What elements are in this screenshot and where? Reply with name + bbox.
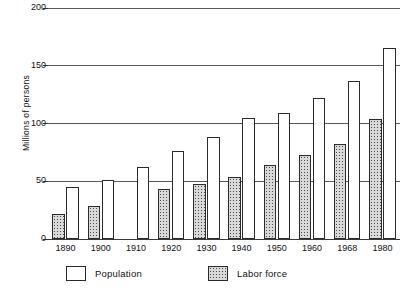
x-tick-label: 1960 xyxy=(292,243,332,253)
legend-entry-labor: Labor force xyxy=(208,264,287,282)
y-tick-label: 200 xyxy=(20,3,46,12)
bar-labor-force xyxy=(264,165,277,239)
bar-population xyxy=(102,180,115,239)
bar-population xyxy=(313,98,326,239)
bar-labor-force xyxy=(228,177,241,239)
bar-group xyxy=(158,8,185,239)
bar-population xyxy=(137,167,150,239)
x-tick-label: 1910 xyxy=(116,243,156,253)
bar-population xyxy=(348,81,361,239)
bar-population xyxy=(278,113,291,239)
x-tick-label: 1890 xyxy=(46,243,86,253)
y-tick-label: 50 xyxy=(20,176,46,185)
x-tick-label: 1950 xyxy=(257,243,297,253)
bar-labor-force xyxy=(52,214,65,239)
bar-group xyxy=(264,8,291,239)
bar-group xyxy=(369,8,396,239)
chart-legend: PopulationLabor force xyxy=(0,264,419,288)
x-tick-label: 1930 xyxy=(186,243,226,253)
legend-swatch-population xyxy=(66,266,86,281)
bar-population xyxy=(172,151,185,239)
bar-group xyxy=(193,8,220,239)
bar-population xyxy=(242,118,255,239)
bar-group xyxy=(52,8,79,239)
x-tick-label: 1920 xyxy=(151,243,191,253)
legend-swatch-labor xyxy=(208,266,228,281)
bar-population xyxy=(66,187,79,239)
bar-labor-force xyxy=(158,189,171,239)
bar-labor-force xyxy=(299,155,312,239)
x-tick-label: 1980 xyxy=(362,243,402,253)
legend-entry-population: Population xyxy=(66,264,142,282)
bar-population xyxy=(207,137,220,239)
bar-group xyxy=(334,8,361,239)
legend-label: Population xyxy=(95,268,142,279)
y-tick-label: 100 xyxy=(20,119,46,128)
bar-group xyxy=(123,8,150,239)
x-tick-label: 1900 xyxy=(81,243,121,253)
bar-group xyxy=(228,8,255,239)
y-tick-label: 0 xyxy=(20,234,46,243)
legend-label: Labor force xyxy=(237,268,287,279)
bar-labor-force xyxy=(193,184,206,239)
bar-labor-force xyxy=(88,206,101,239)
bar-population xyxy=(383,48,396,239)
x-tick-label: 1968 xyxy=(327,243,367,253)
bar-labor-force xyxy=(369,119,382,239)
bar-labor-force xyxy=(123,237,136,239)
bar-group xyxy=(299,8,326,239)
y-tick-label: 150 xyxy=(20,61,46,70)
bar-labor-force xyxy=(334,144,347,239)
bar-group xyxy=(88,8,115,239)
x-tick-label: 1940 xyxy=(222,243,262,253)
bar-chart: Millions of persons 050100150200 1890190… xyxy=(0,0,419,293)
plot-area xyxy=(48,8,400,239)
